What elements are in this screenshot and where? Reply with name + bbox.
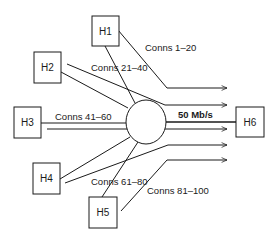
router-node <box>126 100 166 144</box>
link-h1-router <box>105 46 135 103</box>
link-h4-router <box>60 137 130 179</box>
host-h1-label: H1 <box>99 26 112 37</box>
host-h4-label: H4 <box>40 173 53 184</box>
conns-21-40-label: Conns 21–40 <box>91 62 148 73</box>
host-h3-label: H3 <box>21 117 34 128</box>
conns-61-80-label: Conns 61–80 <box>91 176 148 187</box>
conns-81-100-label: Conns 81–100 <box>147 185 209 196</box>
network-diagram: H1 H2 H3 H4 H5 H6 Conns 1–20 Conns 21–40… <box>0 0 279 243</box>
host-h2-label: H2 <box>41 62 54 73</box>
host-h6-label: H6 <box>244 117 257 128</box>
path-h1-conns-1-20 <box>118 30 227 88</box>
link-h2-router <box>61 72 128 108</box>
conns-1-20-label: Conns 1–20 <box>145 42 196 53</box>
host-h5-label: H5 <box>97 207 110 218</box>
conns-41-60-label: Conns 41–60 <box>55 111 112 122</box>
bottleneck-link-label: 50 Mb/s <box>178 109 213 120</box>
